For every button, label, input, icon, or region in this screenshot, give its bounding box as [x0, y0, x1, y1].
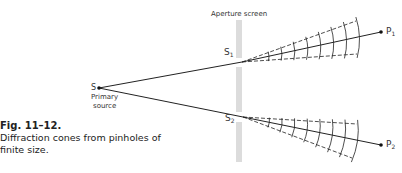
p2-dot: [379, 143, 383, 147]
p1-label: P1: [386, 27, 395, 36]
caption-line-1: Diffraction cones from pinholes of: [0, 132, 175, 144]
diffraction-cones: [242, 17, 360, 162]
p1-dot: [379, 30, 383, 34]
s1-label: S1: [224, 48, 234, 57]
aperture-screen-label: Aperture screen: [211, 11, 267, 18]
s2-label: S2: [225, 114, 235, 123]
s2-sub: 2: [231, 117, 235, 124]
p1-sub: 1: [391, 30, 395, 37]
wavefront-arc: [328, 119, 333, 152]
wavefront-arc: [292, 118, 295, 137]
caption-line-2: finite size.: [0, 144, 175, 156]
wavefront-arc: [304, 119, 308, 143]
p2-sub: 2: [391, 143, 395, 150]
figure-caption: Fig. 11–12. Diffraction cones from pinho…: [0, 120, 175, 156]
p2-label: P2: [386, 140, 395, 149]
aperture-screen: [236, 20, 242, 162]
source-dot: [97, 86, 101, 90]
wavefront-arc: [339, 120, 345, 158]
ray-s-to-s1: [99, 62, 242, 88]
source-letter: S: [91, 83, 96, 92]
s1-sub: 1: [230, 51, 234, 58]
primary-label: Primary: [91, 94, 118, 101]
ray-s-to-s2: [99, 88, 243, 117]
source-word-label: source: [93, 103, 116, 110]
cone-edge-line: [243, 117, 352, 158]
s1-letter: S: [224, 47, 230, 57]
source-label: S: [91, 84, 96, 92]
wavefront-arc: [316, 119, 321, 147]
wavefront-arc: [351, 120, 358, 162]
figure-number: Fig. 11–12.: [0, 120, 175, 132]
s2-letter: S: [225, 113, 231, 123]
